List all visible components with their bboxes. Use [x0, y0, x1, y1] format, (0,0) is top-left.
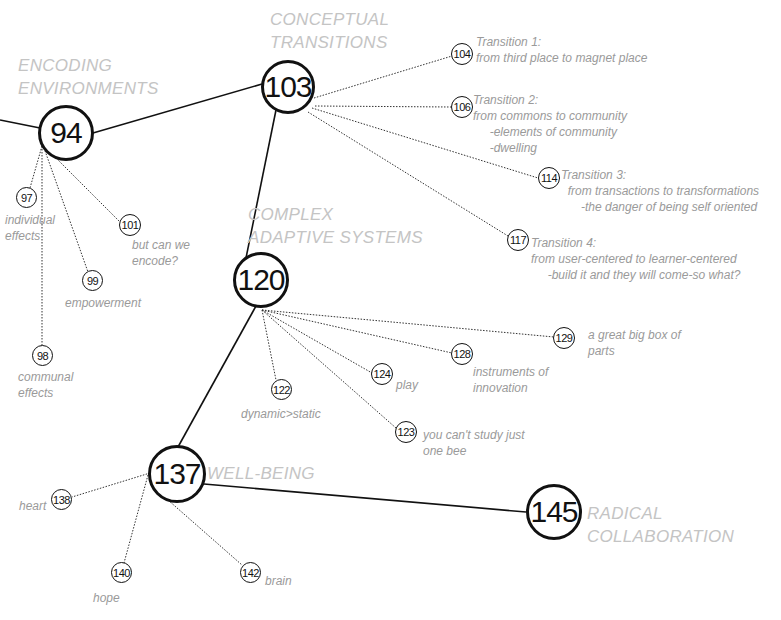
edge-103-106 [315, 106, 451, 107]
label-transition-4: Transition 4: from user-centered to lear… [531, 235, 740, 283]
leaf-node-97[interactable]: 97 [16, 187, 37, 208]
leaf-node-140[interactable]: 140 [111, 562, 132, 583]
leaf-node-106[interactable]: 106 [451, 96, 473, 118]
edge-94-101 [50, 152, 120, 222]
hub-node-120[interactable]: 120 [233, 252, 289, 308]
label-great-big-box-of-parts: a great big box of parts [588, 327, 681, 359]
leaf-node-117[interactable]: 117 [507, 229, 529, 251]
edge-120-128 [262, 310, 452, 353]
label-individual-effects: individual effects [5, 212, 55, 244]
edge-137-140 [124, 475, 148, 563]
label-empowerment: empowerment [65, 295, 141, 311]
leaf-node-124[interactable]: 124 [371, 363, 393, 385]
leaf-node-123[interactable]: 123 [395, 421, 417, 443]
leaf-node-129[interactable]: 129 [553, 327, 575, 349]
label-brain: brain [265, 573, 292, 589]
label-heart: heart [19, 498, 46, 514]
leaf-node-128[interactable]: 128 [451, 343, 473, 365]
label-play: play [396, 377, 418, 393]
heading-encoding-environments: ENCODING ENVIRONMENTS [18, 54, 159, 100]
label-transition-1: Transition 1: from third place to magnet… [476, 34, 647, 66]
leaf-node-104[interactable]: 104 [451, 43, 473, 65]
concept-map: ENCODING ENVIRONMENTS CONCEPTUAL TRANSIT… [0, 0, 781, 620]
leaf-node-101[interactable]: 101 [119, 214, 141, 236]
hub-node-94[interactable]: 94 [38, 105, 94, 161]
edge-120-124 [262, 310, 372, 373]
heading-complex-adaptive-systems: COMPLEX ADAPTIVE SYSTEMS [248, 203, 423, 249]
leaf-node-99[interactable]: 99 [82, 270, 103, 291]
label-instruments-of-innovation: instruments of innovation [473, 364, 548, 396]
heading-radical-collaboration: RADICAL COLLABORATION [587, 502, 734, 548]
hub-node-145[interactable]: 145 [526, 484, 582, 540]
label-but-can-we-encode: but can we encode? [132, 237, 190, 269]
label-dynamic-static: dynamic>static [241, 406, 321, 422]
edge-137-138 [72, 473, 150, 497]
heading-conceptual-transitions: CONCEPTUAL TRANSITIONS [270, 8, 389, 54]
edge-120-129 [262, 310, 554, 337]
leaf-node-98[interactable]: 98 [32, 345, 53, 366]
label-communal-effects: communal effects [18, 369, 73, 401]
heading-well-being: WELL-BEING [207, 462, 315, 485]
label-transition-3: Transition 3: from transactions to trans… [561, 167, 759, 215]
edge-137-145 [204, 484, 526, 512]
edge-103-104 [314, 56, 452, 98]
hub-node-137[interactable]: 137 [148, 445, 206, 503]
edge-offscreen-94 [0, 120, 40, 128]
edge-94-99 [44, 148, 88, 272]
label-hope: hope [93, 590, 120, 606]
edge-120-137 [178, 306, 256, 447]
leaf-node-142[interactable]: 142 [240, 562, 261, 583]
leaf-node-114[interactable]: 114 [538, 167, 560, 189]
hub-node-103[interactable]: 103 [261, 60, 315, 114]
edge-137-142 [168, 500, 242, 565]
label-cant-study-one-bee: you can't study just one bee [423, 427, 525, 459]
leaf-node-122[interactable]: 122 [271, 379, 292, 400]
label-transition-2: Transition 2: from commons to community … [473, 92, 627, 156]
edge-94-97 [30, 146, 42, 188]
leaf-node-138[interactable]: 138 [51, 489, 72, 510]
